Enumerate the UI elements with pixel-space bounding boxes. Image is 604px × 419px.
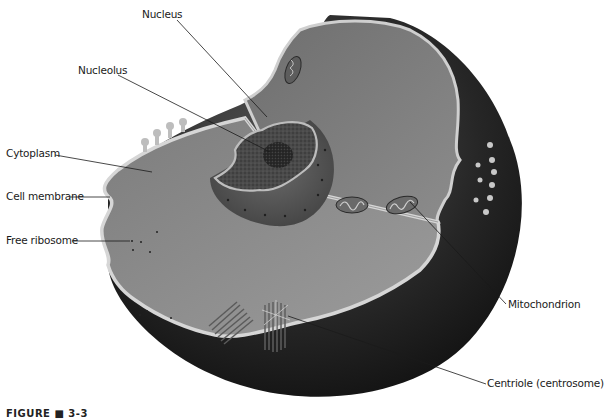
nucleolus	[263, 142, 293, 168]
label-cell-membrane: Cell membrane	[6, 190, 84, 202]
label-nucleolus: Nucleolus	[78, 64, 127, 76]
label-nucleus: Nucleus	[142, 8, 182, 20]
label-free-ribosome: Free ribosome	[6, 234, 78, 246]
label-centriole: Centriole (centrosome)	[487, 377, 604, 389]
mitochondrion-center	[336, 197, 368, 213]
figure-caption: FIGURE ■ 3-3	[6, 408, 88, 419]
leader-nucleus	[177, 20, 267, 117]
label-mitochondrion: Mitochondrion	[508, 298, 580, 310]
label-cytoplasm: Cytoplasm	[6, 147, 60, 159]
